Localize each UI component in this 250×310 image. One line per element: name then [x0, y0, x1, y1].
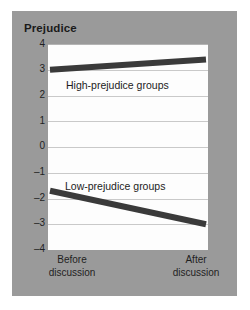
series-line-low-prejudice: [48, 44, 208, 250]
x-tick-after-line1: After: [153, 254, 239, 267]
x-tick-after-line2: discussion: [153, 267, 239, 280]
x-tick-before-discussion: Before discussion: [29, 254, 115, 279]
series-label-low-prejudice: Low-prejudice groups: [65, 180, 165, 192]
series-label-high-prejudice: High-prejudice groups: [66, 79, 169, 91]
x-tick-before-line2: discussion: [29, 267, 115, 280]
x-tick-after-discussion: After discussion: [153, 254, 239, 279]
chart-title: Prejudice: [24, 21, 77, 35]
x-tick-before-line1: Before: [29, 254, 115, 267]
chart-figure: Prejudice High-prejudice groups Low-prej…: [0, 0, 250, 310]
plot-area: High-prejudice groups Low-prejudice grou…: [48, 44, 208, 250]
